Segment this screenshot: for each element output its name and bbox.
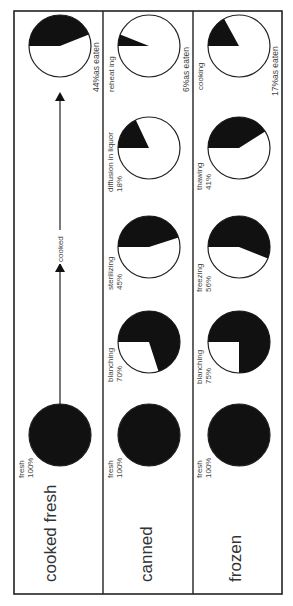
label-blanching: blanching <box>195 350 204 384</box>
label-fresh-pct: 100% <box>26 458 35 478</box>
label-fresh: fresh <box>195 460 204 478</box>
row-title-frozen: frozen <box>226 535 245 582</box>
label-diffusion: diffusion in liquor <box>106 132 115 192</box>
pie-cooked-fresh-fresh <box>29 404 91 466</box>
label-freezing-pct: 56% <box>204 276 213 292</box>
label-fresh: fresh <box>17 460 26 478</box>
label-cooking: cooking <box>196 62 205 90</box>
label-sterilizing-pct: 45% <box>115 274 124 290</box>
arrow-label: cooked <box>56 236 65 262</box>
label-blanching: blanching <box>106 348 115 382</box>
arrow-mid-icon <box>55 263 65 272</box>
label-freezing: freezing <box>195 264 204 292</box>
label-reheating: reheat ing <box>107 56 116 92</box>
label-sterilizing: sterilizing <box>106 257 115 290</box>
label-thawing-pct: 41% <box>204 174 213 190</box>
arrow-head-icon <box>55 92 65 101</box>
label-diffusion-pct: 18% <box>115 176 124 192</box>
label-fresh: fresh <box>106 460 115 478</box>
label-fresh-pct: 100% <box>204 458 213 478</box>
pie-canned-fresh <box>118 404 180 466</box>
label-blanching-pct: 70% <box>115 366 124 382</box>
label-thawing: thawing <box>195 162 204 190</box>
label-final-canned: 6%as eaten <box>181 47 191 92</box>
label-blanching-pct: 75% <box>204 368 213 384</box>
row-title-canned: canned <box>137 526 156 582</box>
label-fresh-pct: 100% <box>115 458 124 478</box>
row-title-cooked-fresh: cooked fresh <box>41 485 60 582</box>
nutrient-retention-chart: cooked cooked fresh canned frozen fresh … <box>0 0 293 606</box>
label-final-cooked: 44%as eaten <box>91 42 101 92</box>
label-final-frozen: 17%as eaten <box>270 46 280 96</box>
pie-frozen-fresh <box>208 404 270 466</box>
